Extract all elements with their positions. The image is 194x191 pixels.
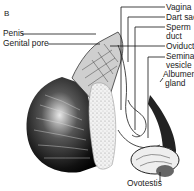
- ovotestis-body: [131, 146, 179, 177]
- label-genital-pore: Genital pore: [3, 39, 49, 48]
- label-dart-sac: Dart sac: [166, 13, 194, 22]
- label-seminal-vesicle: Seminal vesicle: [166, 52, 194, 70]
- label-sperm-duct: Sperm duct: [166, 23, 191, 41]
- label-oviduct: Oviduct: [166, 42, 194, 51]
- label-albumen-gland: Albumen gland: [163, 70, 194, 88]
- panel-letter: B: [4, 9, 9, 18]
- anatomy-illustration: [0, 0, 194, 191]
- duct-coils: [118, 45, 160, 148]
- label-penis: Penis: [3, 29, 24, 38]
- label-vagina: Vagina: [166, 3, 191, 12]
- label-ovotestis: Ovotestis: [127, 179, 162, 188]
